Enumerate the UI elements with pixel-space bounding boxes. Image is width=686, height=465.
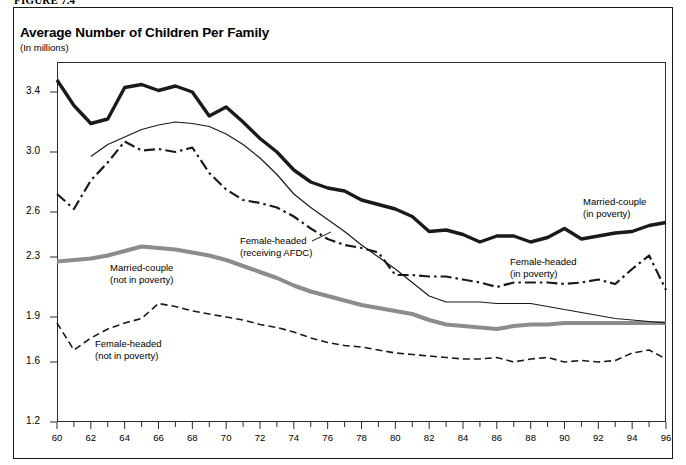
annotation-line-1: Female-headed (95, 338, 162, 350)
y-axis-tick-label: 1.2 (12, 415, 40, 426)
chart-canvas (0, 0, 686, 465)
annotation-line-2: (receiving AFDC) (240, 247, 312, 259)
x-axis-tick-label: 60 (47, 432, 67, 443)
series-annotation-female-afdc: Female-headed(receiving AFDC) (240, 235, 312, 258)
series-annotation-married-not-in-poverty: Married-couple(not in poverty) (110, 262, 173, 285)
series-annotation-female-not-in-poverty: Female-headed(not in poverty) (95, 338, 162, 361)
x-axis-tick-label: 94 (622, 432, 642, 443)
x-axis-tick-label: 78 (352, 432, 372, 443)
x-axis-tick-label: 66 (149, 432, 169, 443)
annotation-line-1: Female-headed (510, 256, 577, 268)
x-axis-tick-label: 90 (555, 432, 575, 443)
y-axis-tick-label: 1.9 (12, 310, 40, 321)
x-axis-tick-label: 74 (284, 432, 304, 443)
annotation-line-2: (in poverty) (583, 208, 646, 220)
y-axis-tick-label: 3.0 (12, 145, 40, 156)
annotation-line-1: Female-headed (240, 235, 312, 247)
x-axis-tick-label: 92 (588, 432, 608, 443)
x-axis-tick-label: 62 (81, 432, 101, 443)
annotation-line-1: Married-couple (110, 262, 173, 274)
x-axis-tick-label: 96 (656, 432, 676, 443)
y-axis-ticks (50, 92, 57, 422)
x-axis-tick-label: 82 (419, 432, 439, 443)
series-line (91, 122, 666, 323)
series-lines (57, 80, 666, 362)
y-axis-tick-label: 2.3 (12, 250, 40, 261)
series-line (57, 80, 666, 242)
annotation-line-2: (not in poverty) (95, 350, 162, 362)
x-axis-tick-label: 64 (115, 432, 135, 443)
annotation-line-2: (in poverty) (510, 268, 577, 280)
x-axis-tick-label: 88 (521, 432, 541, 443)
x-axis-tick-label: 72 (250, 432, 270, 443)
y-axis-tick-label: 3.4 (12, 85, 40, 96)
x-axis-tick-label: 68 (182, 432, 202, 443)
x-axis-ticks (57, 422, 666, 429)
x-axis-tick-label: 76 (318, 432, 338, 443)
series-annotation-female-in-poverty: Female-headed(in poverty) (510, 256, 577, 279)
annotation-line-2: (not in poverty) (110, 274, 173, 286)
x-axis-tick-label: 86 (487, 432, 507, 443)
x-axis-tick-label: 84 (453, 432, 473, 443)
y-axis-tick-label: 2.6 (12, 205, 40, 216)
x-axis-tick-label: 70 (216, 432, 236, 443)
x-axis-tick-label: 80 (385, 432, 405, 443)
series-annotation-married-in-poverty: Married-couple(in poverty) (583, 196, 646, 219)
figure-container: FIGURE 7.4 Average Number of Children Pe… (0, 0, 686, 465)
annotation-line-1: Married-couple (583, 196, 646, 208)
y-axis-tick-label: 1.6 (12, 355, 40, 366)
